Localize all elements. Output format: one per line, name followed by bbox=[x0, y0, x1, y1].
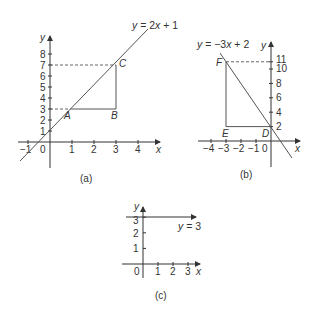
x-tick-label: −2 bbox=[233, 143, 245, 154]
x-axis-label: x bbox=[155, 144, 162, 155]
x-tick-label: 1 bbox=[155, 266, 161, 277]
x-axis-label: x bbox=[195, 266, 202, 277]
point-c-label: C bbox=[119, 58, 127, 69]
point-d-label: D bbox=[262, 128, 269, 139]
y-tick-label: 6 bbox=[40, 71, 46, 82]
y-tick-label: 2 bbox=[40, 115, 46, 126]
y-axis-label: y bbox=[133, 201, 140, 212]
x-tick-label: 0 bbox=[262, 143, 268, 154]
y-axis-label: y bbox=[39, 32, 46, 43]
equation-a: y = 2x + 1 bbox=[131, 19, 178, 31]
y-tick-label: 8 bbox=[276, 78, 282, 89]
graph-b: −4 −3 −2 −1 0 x 2 4 6 8 10 11 y F E D bbox=[196, 38, 301, 180]
x-tick-label: 0 bbox=[134, 266, 140, 277]
x-tick-label: 3 bbox=[113, 144, 119, 155]
x-tick-label: −4 bbox=[203, 143, 215, 154]
y-tick-label: 1 bbox=[133, 243, 139, 254]
y-axis-label: y bbox=[260, 40, 267, 51]
x-tick-label: −1 bbox=[248, 143, 260, 154]
y-tick-label: 7 bbox=[40, 60, 46, 71]
y-tick-label: 2 bbox=[133, 228, 139, 239]
graph-a: −1 0 1 2 3 4 x 1 2 3 4 5 6 7 8 y bbox=[18, 19, 178, 184]
caption-c: (c) bbox=[155, 290, 167, 301]
y-tick-label: 2 bbox=[276, 121, 282, 132]
x-tick-label: 1 bbox=[69, 144, 75, 155]
x-tick-label: −3 bbox=[218, 143, 230, 154]
x-tick-label: 0 bbox=[40, 144, 46, 155]
y-tick-label: 8 bbox=[40, 49, 46, 60]
y-tick-label: 4 bbox=[276, 107, 282, 118]
point-b-label: B bbox=[111, 110, 118, 121]
y-tick-label: 6 bbox=[276, 92, 282, 103]
equation-c: y = 3 bbox=[177, 220, 201, 232]
point-a-label: A bbox=[63, 110, 71, 121]
point-e-label: E bbox=[222, 128, 229, 139]
y-tick-label: 3 bbox=[40, 104, 46, 115]
graph-c: 0 1 2 3 x 1 2 3 y y = 3 (c) bbox=[122, 201, 202, 301]
x-tick-label: 3 bbox=[185, 266, 191, 277]
x-tick-label: 2 bbox=[170, 266, 176, 277]
x-tick-label: 2 bbox=[91, 144, 97, 155]
y-tick-label: 4 bbox=[40, 93, 46, 104]
y-tick-label: 5 bbox=[40, 82, 46, 93]
y-tick-label: 11 bbox=[276, 54, 287, 65]
x-axis-label: x bbox=[294, 143, 301, 154]
caption-a: (a) bbox=[80, 173, 92, 184]
x-tick-label: 4 bbox=[135, 144, 141, 155]
caption-b: (b) bbox=[240, 169, 252, 180]
point-f-label: F bbox=[216, 57, 223, 68]
figure: −1 0 1 2 3 4 x 1 2 3 4 5 6 7 8 y bbox=[0, 0, 313, 309]
equation-b: y = −3x + 2 bbox=[196, 38, 249, 50]
x-tick-label: −1 bbox=[20, 144, 32, 155]
